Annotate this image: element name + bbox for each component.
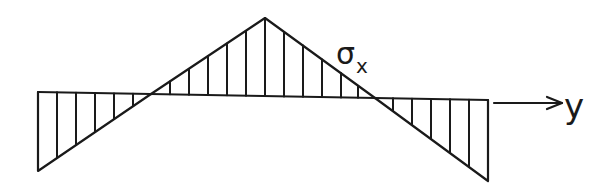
sigma-symbol: σ — [336, 36, 355, 71]
stress-diagram: y σ x — [0, 0, 613, 190]
middle-region-hatching — [170, 18, 358, 98]
y-axis-arrow — [494, 97, 562, 109]
sigma-subscript: x — [356, 54, 368, 78]
left-region-hatching — [57, 92, 133, 158]
right-region-hatching — [393, 98, 469, 167]
y-axis-label: y — [564, 86, 584, 126]
baseline — [38, 92, 488, 100]
sigma-x-label: σ x — [336, 36, 368, 78]
